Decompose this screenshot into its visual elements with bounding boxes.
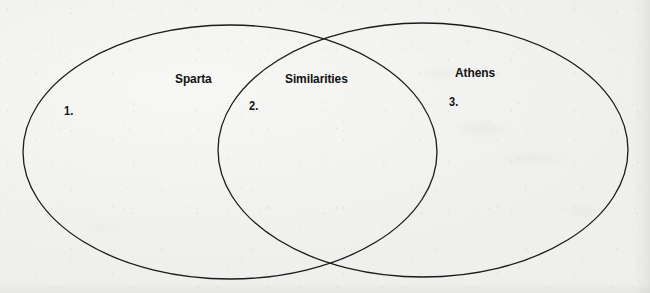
right-ellipse-athens — [218, 23, 628, 277]
venn-diagram-graphic — [0, 0, 650, 293]
region-number-2: 2. — [249, 100, 258, 112]
scan-edge-shadow-right — [634, 0, 650, 293]
region-number-1: 1. — [64, 105, 73, 117]
scan-edge-shadow-bottom — [0, 283, 650, 293]
left-ellipse-sparta — [23, 25, 437, 279]
region-label-athens: Athens — [455, 66, 495, 79]
venn-diagram-page: Sparta Similarities Athens 1. 2. 3. — [0, 0, 650, 293]
region-label-sparta: Sparta — [175, 72, 212, 85]
region-number-3: 3. — [449, 96, 458, 108]
region-label-similarities: Similarities — [285, 72, 348, 85]
